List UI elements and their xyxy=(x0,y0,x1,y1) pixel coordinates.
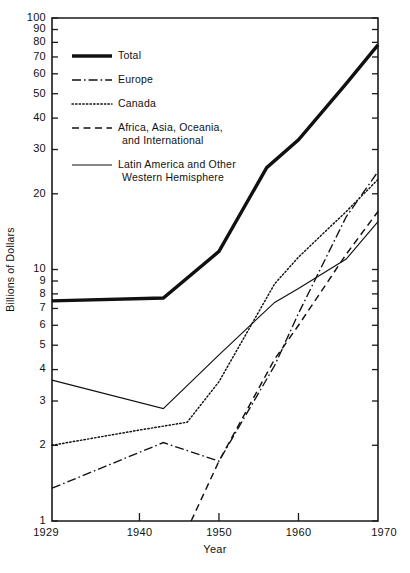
series-line xyxy=(191,212,378,521)
y-axis-tick-label: 30 xyxy=(33,142,46,154)
y-axis-tick-label: 3 xyxy=(40,394,46,406)
series-line xyxy=(52,222,378,409)
legend-item: Total xyxy=(72,49,141,61)
legend-label-line2: Western Hemisphere xyxy=(122,171,224,183)
legend-label: Latin America and Other xyxy=(118,158,236,170)
series-line xyxy=(52,172,378,489)
y-axis-tick-label: 5 xyxy=(40,338,46,350)
y-axis-tick-label: 1 xyxy=(40,514,46,526)
y-axis-tick-label: 40 xyxy=(33,111,46,123)
legend-item: Latin America and OtherWestern Hemispher… xyxy=(72,158,236,183)
y-axis-tick-label: 70 xyxy=(33,50,46,62)
y-axis-tick-label: 9 xyxy=(40,274,46,286)
y-axis-tick-label: 60 xyxy=(33,67,46,79)
y-axis-tick-label: 20 xyxy=(33,187,46,199)
legend-label-line2: and International xyxy=(122,134,204,146)
legend-item: Canada xyxy=(72,97,156,109)
y-axis-tick-label: 8 xyxy=(40,287,46,299)
y-axis-tick-label: 100 xyxy=(27,11,46,23)
legend-label: Africa, Asia, Oceania, xyxy=(118,121,223,133)
legend-item: Africa, Asia, Oceania,and International xyxy=(72,121,223,146)
x-axis-tick-label: 1950 xyxy=(206,526,232,538)
legend-item: Europe xyxy=(72,73,153,85)
y-axis-title: Billions of Dollars xyxy=(4,227,16,311)
y-axis-tick-label: 80 xyxy=(33,35,46,47)
legend-label: Total xyxy=(118,49,141,61)
x-axis-tick-label: 1960 xyxy=(286,526,312,538)
y-axis-tick-label: 6 xyxy=(40,318,46,330)
line-chart-log-scale: 123456789102030405060708090100Billions o… xyxy=(0,0,410,573)
y-axis-tick-label: 10 xyxy=(33,262,46,274)
y-axis-tick-label: 7 xyxy=(40,301,46,313)
y-axis-tick-label: 50 xyxy=(33,87,46,99)
x-axis-tick-label: 1970 xyxy=(371,526,397,538)
y-axis-tick-label: 90 xyxy=(33,22,46,34)
x-axis-tick-label: 1940 xyxy=(127,526,153,538)
y-axis-tick-label: 2 xyxy=(40,438,46,450)
x-axis-title: Year xyxy=(203,543,226,555)
legend-label: Europe xyxy=(118,73,153,85)
y-axis-tick-label: 4 xyxy=(40,362,46,374)
legend-label: Canada xyxy=(118,97,156,109)
chart-figure: 123456789102030405060708090100Billions o… xyxy=(0,0,410,573)
series-line xyxy=(52,179,378,445)
x-axis-tick-label: 1929 xyxy=(33,526,59,538)
